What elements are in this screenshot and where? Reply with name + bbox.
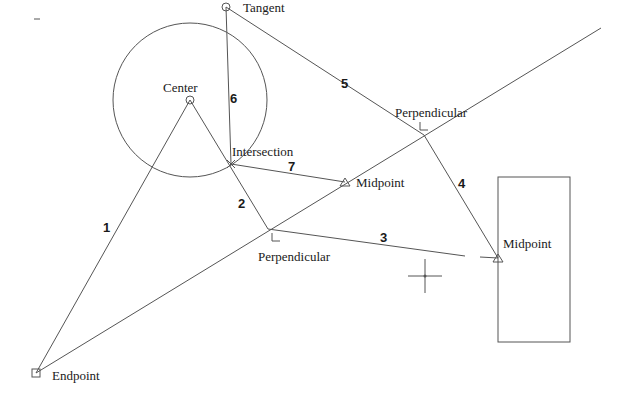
perpendicular-marker-icon bbox=[272, 233, 280, 241]
segment-number-4: 4 bbox=[458, 177, 465, 190]
segment-number-2: 2 bbox=[238, 197, 245, 210]
label-endpoint: Endpoint bbox=[52, 369, 100, 382]
long-diagonal-line[interactable] bbox=[36, 28, 601, 373]
segment-2[interactable] bbox=[190, 100, 268, 229]
segment-number-6: 6 bbox=[230, 92, 237, 105]
segment-number-7: 7 bbox=[288, 160, 295, 173]
rectangle[interactable] bbox=[498, 177, 570, 342]
segment-6[interactable] bbox=[226, 7, 231, 164]
label-midpoint-inner: Midpoint bbox=[356, 176, 404, 189]
label-center: Center bbox=[163, 81, 198, 94]
drawing-geometry bbox=[0, 0, 620, 401]
label-perpendicular-bottom: Perpendicular bbox=[258, 250, 330, 263]
label-perpendicular-top: Perpendicular bbox=[395, 106, 467, 119]
segment-number-3: 3 bbox=[380, 231, 387, 244]
cad-drawing-canvas[interactable]: Tangent Center Intersection Perpendicula… bbox=[0, 0, 620, 401]
cursor-pickbox bbox=[424, 275, 427, 278]
label-midpoint-rect: Midpoint bbox=[503, 237, 551, 250]
segment-4[interactable] bbox=[424, 135, 498, 258]
label-intersection: Intersection bbox=[232, 145, 293, 158]
segment-number-5: 5 bbox=[341, 77, 348, 90]
segment-number-1: 1 bbox=[103, 221, 110, 234]
perpendicular-marker-icon bbox=[420, 122, 428, 130]
label-tangent: Tangent bbox=[243, 1, 285, 14]
segment-1[interactable] bbox=[36, 100, 190, 373]
